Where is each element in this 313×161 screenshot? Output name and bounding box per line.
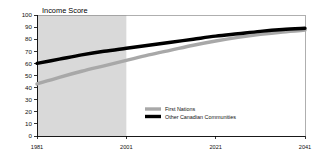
income-score-chart: 0102030405060708090100 1981200120212041 …	[0, 0, 313, 161]
y-tick-label: 80	[25, 35, 32, 42]
legend-swatch	[145, 107, 161, 110]
y-tick-label: 100	[22, 11, 33, 18]
x-tick-label: 2021	[209, 144, 221, 150]
y-tick-label: 70	[25, 48, 32, 55]
chart-title: Income Score	[42, 6, 88, 15]
y-tick-label: 30	[25, 96, 32, 103]
legend-label: First Nations	[165, 106, 196, 112]
y-tick-label: 20	[25, 108, 32, 115]
y-tick-label: 40	[25, 84, 32, 91]
legend-label: Other Canadian Communities	[165, 114, 236, 120]
x-tick-label: 2001	[120, 144, 132, 150]
chart-canvas: 0102030405060708090100 1981200120212041 …	[0, 0, 313, 161]
y-tick-label: 0	[29, 132, 33, 139]
legend-swatch	[145, 115, 161, 118]
y-tick-label: 10	[25, 120, 32, 127]
y-tick-label: 60	[25, 60, 32, 67]
y-tick-label: 90	[25, 23, 32, 30]
x-tick-label: 2041	[299, 144, 311, 150]
historical-period-shading	[37, 15, 126, 136]
x-tick-label: 1981	[31, 144, 43, 150]
plot-shaded-region	[37, 15, 126, 136]
y-tick-label: 50	[25, 72, 32, 79]
